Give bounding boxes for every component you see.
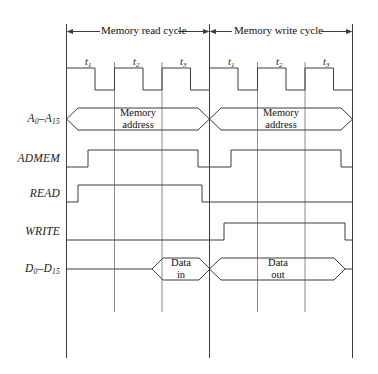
- clock-waveform: [67, 68, 353, 90]
- signal-label-a-high: A: [45, 112, 52, 124]
- bus-value-line2: in: [151, 269, 211, 281]
- bus-value-line2: address: [98, 119, 178, 131]
- bus-value-line2: address: [241, 119, 321, 131]
- signal-label-d-high-sub: 15: [52, 267, 60, 276]
- clock-phase-label-read-t2: t2: [133, 56, 139, 67]
- clock-phase-label-read-t3: t3: [180, 56, 186, 67]
- bus-value-data-out: Data out: [248, 257, 308, 281]
- bus-value-line1: Memory: [98, 107, 178, 119]
- signal-label-d-low: D: [25, 262, 34, 274]
- signal-label-admem: ADMEM: [8, 152, 60, 164]
- clock-phase-label-write-t1: t1: [228, 56, 234, 67]
- bus-value-line1: Data: [248, 257, 308, 269]
- phase-subscript: 2: [136, 61, 140, 69]
- bus-value-line2: out: [248, 269, 308, 281]
- clock-phase-label-write-t2: t2: [276, 56, 282, 67]
- timing-diagram-figure: Memory read cycle Memory write cycle t1 …: [0, 0, 378, 374]
- bus-value-address-read: Memory address: [98, 107, 178, 131]
- cycle-label-write: Memory write cycle: [234, 24, 323, 36]
- signal-label-data-bus: D0–D15: [8, 262, 60, 274]
- signal-label-address-bus: A0–A15: [8, 112, 60, 124]
- signal-label-a-low-sub: 0: [35, 117, 39, 126]
- bus-value-address-write: Memory address: [241, 107, 321, 131]
- phase-subscript: 3: [183, 61, 187, 69]
- bus-value-line1: Memory: [241, 107, 321, 119]
- bus-value-data-in: Data in: [151, 257, 211, 281]
- phase-subscript: 1: [88, 61, 92, 69]
- clock-phase-label-write-t3: t3: [323, 56, 329, 67]
- signal-label-a-low: A: [28, 112, 35, 124]
- phase-subscript: 3: [326, 61, 330, 69]
- cycle-label-read: Memory read cycle: [101, 24, 187, 36]
- signal-label-d-low-sub: 0: [34, 267, 38, 276]
- phase-subscript: 1: [231, 61, 235, 69]
- signal-label-write: WRITE: [8, 225, 60, 237]
- phase-subscript: 2: [279, 61, 283, 69]
- signal-label-d-high: D: [43, 262, 52, 274]
- signal-label-a-high-sub: 15: [52, 117, 60, 126]
- signal-label-read: READ: [8, 187, 60, 199]
- clock-phase-label-read-t1: t1: [85, 56, 91, 67]
- bus-value-line1: Data: [151, 257, 211, 269]
